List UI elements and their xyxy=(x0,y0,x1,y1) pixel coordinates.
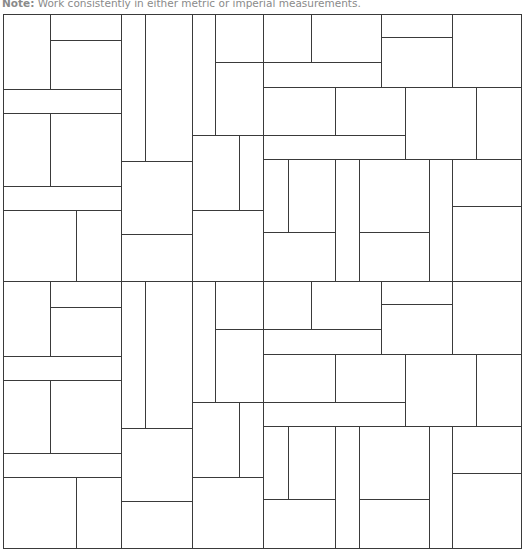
tile-grid-lines xyxy=(4,15,522,549)
tile-pattern-diagram xyxy=(0,0,525,556)
